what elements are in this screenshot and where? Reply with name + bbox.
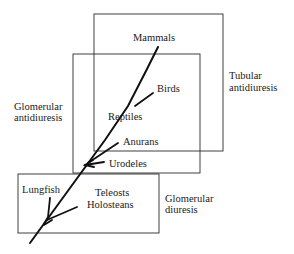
lungfish-branch <box>44 198 50 224</box>
region-label-glomerular-antidiuresis-line1: Glomerular <box>14 101 63 112</box>
taxon-mammals: Mammals <box>133 32 175 43</box>
birds-branch <box>135 93 153 106</box>
taxon-reptiles: Reptiles <box>108 111 142 122</box>
region-label-tubular-line1: Tubular <box>229 70 262 81</box>
region-label-tubular-line2: antidiuresis <box>229 82 277 93</box>
taxon-anurans: Anurans <box>123 136 159 147</box>
taxon-teleosts: Teleosts <box>95 187 129 198</box>
taxon-holosteans: Holosteans <box>87 199 134 210</box>
region-label-glomerular-antidiuresis-line2: antidiuresis <box>14 112 62 123</box>
taxon-urodeles: Urodeles <box>109 158 147 169</box>
region-label-glomerular-diuresis-line1: Glomerular <box>165 193 214 204</box>
taxon-lungfish: Lungfish <box>22 184 61 195</box>
vertebrate-renal-evolution-diagram: Mammals Birds Reptiles Anurans Urodeles … <box>0 0 294 254</box>
region-label-glomerular-diuresis-line2: diuresis <box>165 204 198 215</box>
taxon-birds: Birds <box>157 83 180 94</box>
